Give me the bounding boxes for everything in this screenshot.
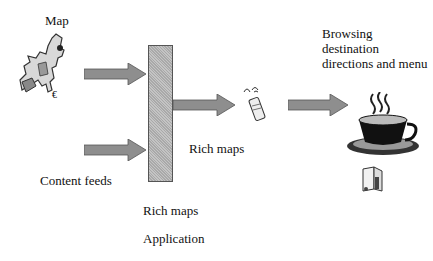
arrow-map-to-app (84, 63, 148, 85)
rich-maps-application-label-line2: Application (143, 231, 204, 246)
mobile-phone-icon (240, 84, 270, 124)
rich-maps-label: Rich maps (189, 141, 244, 156)
europe-map-icon: € (18, 30, 66, 100)
map-label: Map (45, 13, 69, 28)
coffee-cup-icon (345, 92, 423, 158)
browsing-label: Browsing destination directions and menu (322, 26, 432, 71)
rich-maps-application-label-line1: Rich maps (143, 203, 198, 218)
menu-booklet-icon (360, 165, 386, 195)
arrow-feeds-to-app (84, 139, 148, 161)
svg-text:€: € (52, 89, 57, 100)
arrow-mobile-to-cafe (288, 94, 350, 116)
content-feeds-label: Content feeds (40, 173, 112, 188)
rich-maps-application-bar (148, 45, 173, 182)
arrow-app-to-mobile (173, 94, 237, 116)
